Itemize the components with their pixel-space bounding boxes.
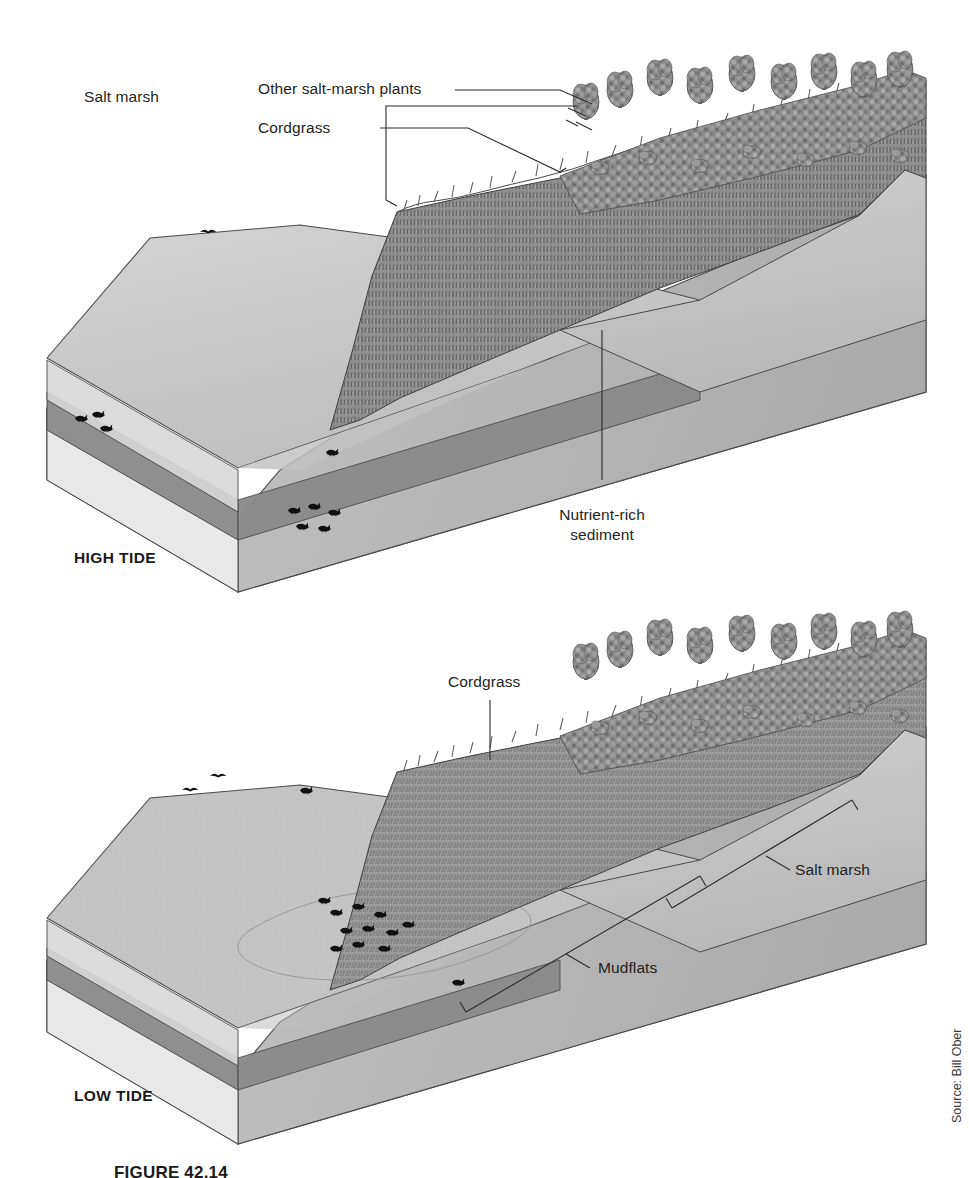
- sediment-line-1: Nutrient-rich: [559, 506, 645, 523]
- label-low-tide: LOW TIDE: [74, 1087, 153, 1105]
- flying-bird-low-1: [182, 788, 198, 792]
- source-credit: Source: Bill Ober: [950, 1029, 964, 1123]
- salt-marsh-diagram: [0, 0, 969, 1178]
- label-other-salt-marsh-plants: Other salt-marsh plants: [258, 79, 421, 99]
- label-nutrient-rich-sediment: Nutrient-rich sediment: [538, 505, 666, 545]
- label-salt-marsh-low: Salt marsh: [795, 860, 870, 880]
- label-cordgrass-low: Cordgrass: [448, 672, 520, 692]
- label-high-tide: HIGH TIDE: [74, 549, 156, 567]
- label-mudflats: Mudflats: [598, 958, 657, 978]
- sediment-line-2: sediment: [570, 526, 634, 543]
- flying-bird-low-2: [210, 774, 226, 778]
- figure-illustration: Salt marsh Other salt-marsh plants Cordg…: [0, 0, 969, 1178]
- figure-caption: FIGURE 42.14: [114, 1163, 228, 1178]
- label-cordgrass-high: Cordgrass: [258, 118, 330, 138]
- label-salt-marsh-group: Salt marsh: [84, 87, 159, 107]
- high-tide-block: [47, 51, 926, 592]
